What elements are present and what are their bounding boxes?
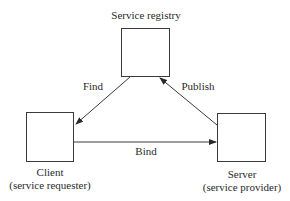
client-sublabel: (service requester) [0,179,100,191]
server-node [217,113,266,162]
bind-label: Bind [131,145,161,157]
registry-label: Service registry [106,9,186,21]
server-label: Server [202,168,282,180]
service-registry-node [121,28,170,77]
diagram-canvas: Service registry Client (service request… [0,0,290,201]
client-node [26,112,74,162]
publish-label: Publish [178,80,218,92]
find-label: Find [78,80,108,92]
server-sublabel: (service provider) [194,181,290,193]
client-label: Client [10,166,90,178]
